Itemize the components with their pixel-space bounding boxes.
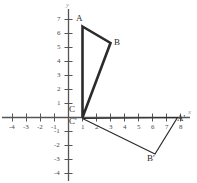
x-tick-label-2: 2 xyxy=(95,124,99,131)
vertex-label-a: A xyxy=(76,14,83,23)
x-tick-label--2: -2 xyxy=(37,124,43,131)
triangle-abc xyxy=(83,27,111,118)
graph-canvas xyxy=(0,0,197,183)
y-tick-label--2: -2 xyxy=(54,142,60,149)
y-tick-label--1: -1 xyxy=(54,128,60,135)
y-tick-label-5: 5 xyxy=(57,44,61,51)
y-tick-label--3: -3 xyxy=(54,156,60,163)
vertex-label-a-prime: A' xyxy=(177,114,185,123)
x-tick-label-4: 4 xyxy=(123,124,127,131)
x-tick-label-6: 6 xyxy=(151,124,155,131)
x-tick-label-8: 8 xyxy=(179,124,183,131)
y-tick-label-3: 3 xyxy=(57,72,61,79)
y-tick-label-2: 2 xyxy=(57,86,61,93)
y-tick-label-4: 4 xyxy=(57,58,61,65)
vertex-label-b-prime: B' xyxy=(147,154,155,163)
y-tick-label-7: 7 xyxy=(57,16,61,23)
x-tick-label-7: 7 xyxy=(165,124,169,131)
x-tick-label-5: 5 xyxy=(137,124,141,131)
coordinate-plane-figure: -4 -3 -2 -1 1 2 3 4 5 6 7 8 7 6 5 4 3 2 … xyxy=(0,0,197,183)
vertex-label-c-prime: C' xyxy=(69,117,77,126)
x-axis-name: x xyxy=(188,109,191,116)
y-tick-label-6: 6 xyxy=(57,30,61,37)
y-tick-label--4: -4 xyxy=(54,170,60,177)
x-tick-label-1: 1 xyxy=(81,124,85,131)
x-tick-label--3: -3 xyxy=(23,124,29,131)
x-tick-label-3: 3 xyxy=(109,124,113,131)
vertex-label-c: C xyxy=(69,105,75,114)
x-tick-label--4: -4 xyxy=(9,124,15,131)
y-axis-name: y xyxy=(66,2,69,9)
vertex-label-b: B xyxy=(114,38,120,47)
y-tick-label-1: 1 xyxy=(57,100,61,107)
